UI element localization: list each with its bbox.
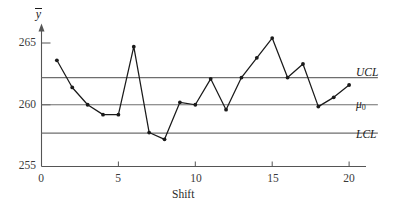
data-point <box>224 108 228 112</box>
data-point <box>240 76 244 80</box>
y-axis-label: y <box>35 8 42 20</box>
data-point <box>301 62 305 66</box>
data-series-line <box>57 38 349 139</box>
lcl-label: LCL <box>356 128 376 140</box>
data-point <box>255 56 259 60</box>
x-tick-label-20: 20 <box>337 172 361 184</box>
x-axis-title: Shift <box>172 188 194 200</box>
data-point <box>132 45 136 49</box>
control-chart: y 265 260 255 0 5 10 15 20 Shift UCL μ0 … <box>0 0 394 211</box>
data-point <box>55 58 59 62</box>
data-point <box>147 131 151 135</box>
x-tick-label-15: 15 <box>261 172 285 184</box>
data-point <box>163 137 167 141</box>
data-point <box>70 86 74 90</box>
y-tick-label-255: 255 <box>6 159 36 171</box>
data-point <box>193 103 197 107</box>
y-axis-arrow-icon <box>39 23 45 31</box>
x-tick-label-0: 0 <box>29 172 53 184</box>
data-point <box>347 83 351 87</box>
data-point <box>117 113 121 117</box>
x-tick-label-10: 10 <box>184 172 208 184</box>
data-point <box>286 76 290 80</box>
mu0-label-subscript: 0 <box>362 103 366 112</box>
data-point <box>332 95 336 99</box>
data-point <box>209 77 213 81</box>
x-tick-label-5: 5 <box>106 172 130 184</box>
data-point <box>316 105 320 109</box>
data-point <box>270 36 274 40</box>
data-point <box>178 100 182 104</box>
ucl-label: UCL <box>356 66 378 78</box>
data-point <box>86 103 90 107</box>
y-axis-label-text: y <box>35 9 42 20</box>
y-tick-label-265: 265 <box>6 36 36 48</box>
data-point <box>101 113 105 117</box>
y-tick-label-260: 260 <box>6 98 36 110</box>
mu0-label: μ0 <box>356 98 366 112</box>
